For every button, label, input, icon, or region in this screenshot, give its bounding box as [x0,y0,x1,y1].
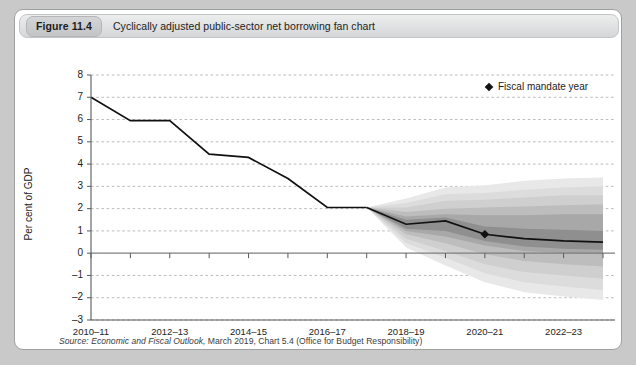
figure-title: Cyclically adjusted public-sector net bo… [113,20,375,32]
y-tick-label: 1 [77,225,83,236]
fan-chart: 876543210–1–2–3 2010–112012–132014–15201… [15,39,621,349]
source-label: Source: [59,336,89,346]
y-tick-label: 4 [77,158,83,169]
legend-diamond-marker [485,83,494,92]
figure-number-badge: Figure 11.4 [26,16,102,37]
y-axis-title: Per cent of GDP [23,167,34,240]
y-tick-label: 7 [77,91,83,102]
chart-plot-area: 876543210–1–2–3 2010–112012–132014–15201… [15,39,621,349]
y-tick-label: –1 [72,269,84,280]
chart-legend: Fiscal mandate year [485,81,589,92]
y-tick-label: 8 [77,69,83,80]
y-tick-label: 0 [77,247,83,258]
figure-title-bar: Figure 11.4 Cyclically adjusted public-s… [19,14,619,38]
y-tick-label: 5 [77,135,83,146]
y-tick-label: 6 [77,113,83,124]
legend-label: Fiscal mandate year [498,81,589,92]
figure-frame: Figure 11.4 Cyclically adjusted public-s… [14,9,622,350]
source-note: Source: Economic and Fiscal Outlook, Mar… [15,336,621,346]
y-tick-label: 2 [77,202,83,213]
y-tick-labels-group: 876543210–1–2–3 [72,69,84,325]
source-rest: March 2019, Chart 5.4 (Office for Budget… [205,336,422,346]
fan-bands-group [367,177,603,300]
source-publication: Economic and Fiscal Outlook, [91,336,205,346]
y-tick-label: –2 [72,291,84,302]
y-tick-label: 3 [77,180,83,191]
series-line [91,97,367,207]
y-tick-label: –3 [72,314,84,325]
